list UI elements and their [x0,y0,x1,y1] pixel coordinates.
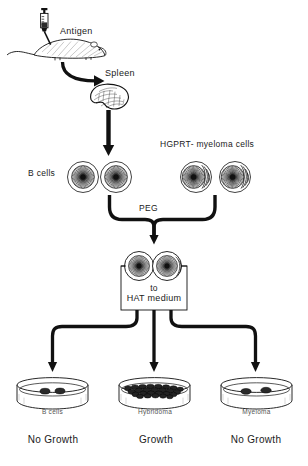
outcome-myeloma: No Growth [204,434,308,445]
diagram-canvas [0,0,308,466]
hybridoma-diagram: Antigen Spleen B cells HGPRT- myeloma ce… [0,0,308,466]
arrow-peg-fusion [110,195,216,245]
label-dish-myeloma: Myeloma [205,408,308,415]
syringe-icon [41,8,51,45]
arrow-spleen-to-bcells [103,110,114,156]
cell-icon [220,162,251,193]
cell-icon [101,162,132,193]
outcome-b-cells: No Growth [0,434,106,445]
myeloma-cell-pair [181,162,251,193]
petri-dish-icon [17,378,88,409]
label-peg: PEG [139,203,158,213]
outcome-hybridoma: Growth [104,434,208,445]
petri-dish-icon [119,378,190,409]
label-hat-to: to [0,283,308,293]
label-antigen: Antigen [60,26,93,36]
petri-dish-icon [221,378,292,409]
arrow-mouse-to-spleen [63,62,105,87]
label-spleen: Spleen [105,68,135,78]
label-b-cells: B cells [28,168,55,178]
b-cell-pair [68,162,132,193]
cell-icon [68,162,99,193]
label-hgprt-myeloma-cells: HGPRT- myeloma cells [160,139,254,149]
label-hat-medium: HAT medium [0,293,308,303]
label-dish-b-cells: B cells [0,408,105,415]
mouse-icon [7,39,106,60]
arrows-to-dishes [48,310,260,372]
spleen-icon [91,84,129,109]
cell-icon [181,162,212,193]
label-dish-hybridoma: Hybridoma [103,408,207,415]
